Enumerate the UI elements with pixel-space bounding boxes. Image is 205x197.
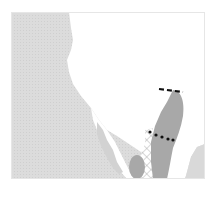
map-canvas: [11, 12, 205, 179]
range-island: [129, 155, 145, 179]
map-figure: [11, 12, 205, 179]
